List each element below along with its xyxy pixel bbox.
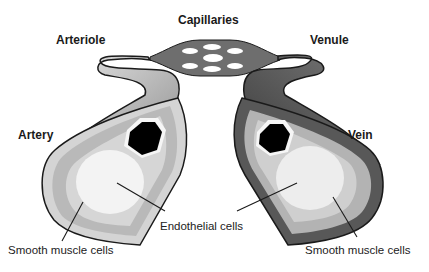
label-arteriole: Arteriole <box>56 34 105 46</box>
label-smooth-muscle-cells-left: Smooth muscle cells <box>8 245 113 257</box>
blood-vessel-diagram: Capillaries Arteriole Venule Artery Vein… <box>0 0 429 272</box>
label-capillaries: Capillaries <box>178 14 239 26</box>
artery-endothelium <box>76 150 144 214</box>
vein-cross-section <box>234 98 383 245</box>
label-venule: Venule <box>310 34 349 46</box>
label-vein: Vein <box>348 129 373 141</box>
vein-endothelium <box>276 146 344 210</box>
label-smooth-muscle-cells-right: Smooth muscle cells <box>305 245 410 257</box>
label-artery: Artery <box>18 129 53 141</box>
label-endothelial-cells: Endothelial cells <box>160 221 243 233</box>
